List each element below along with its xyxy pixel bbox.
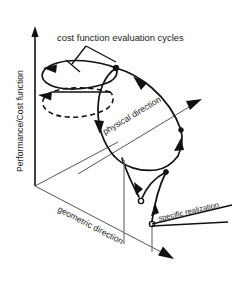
evaluation-cycle-upper-loop [42,61,117,90]
axis-label-physical: physical direction [101,94,163,137]
realization-marker-left [138,198,143,203]
performance-axis-arrowhead [31,26,38,37]
base-plane-edge [35,142,118,186]
axes-group [31,26,202,259]
loop-node-top [113,65,119,71]
caption-leader-right [86,46,116,62]
loop-node-right [179,128,184,133]
axis-label-geometric: geometric direction [56,204,125,246]
diagram-canvas: cost function evaluation cycles Performa… [0,0,244,284]
branch-node-right [164,170,169,175]
geometric-axis-line [35,186,165,254]
evaluation-cycle-lower-arrowhead [38,92,52,101]
physical-axis-arrowhead [186,99,202,110]
specific-realization-leader-bottom [152,222,228,226]
realization-branch-left-arrowhead [134,182,143,195]
geometric-axis-arrowhead [158,247,174,260]
figure-root: cost function evaluation cycles Performa… [0,0,244,284]
realization-branches-group [122,158,166,252]
realization-branch-connector [141,172,166,200]
annotation-specific-realization: specific realization [157,200,219,223]
performance-axis [31,26,38,186]
axis-label-performance: Performance/Cost function [15,70,25,172]
caption-evaluation-cycles: cost function evaluation cycles [57,32,184,43]
